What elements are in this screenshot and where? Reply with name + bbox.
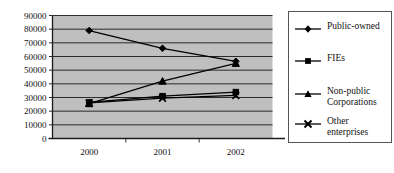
legend-item-label: Public-owned xyxy=(327,21,380,32)
line-chart: 9000080000700006000050000400003000020000… xyxy=(0,0,394,173)
x-axis-tick-labels: 200020012002 xyxy=(80,147,245,157)
y-axis-tick-label: 20000 xyxy=(24,106,47,116)
legend-item-label: Non-public Corporations xyxy=(327,86,377,108)
legend-marker-diamond-icon xyxy=(294,21,322,33)
y-axis-tick-labels: 9000080000700006000050000400003000020000… xyxy=(24,11,47,144)
x-axis-tick-label: 2001 xyxy=(154,147,172,157)
y-axis-tick-label: 70000 xyxy=(24,38,47,48)
legend-item-label: Other enterprises xyxy=(327,116,368,138)
x-axis-tick-label: 2002 xyxy=(227,147,245,157)
legend-marker-triangle-icon xyxy=(294,86,322,98)
y-axis-tick-label: 50000 xyxy=(24,65,47,75)
y-axis-tick-label: 60000 xyxy=(24,52,47,62)
legend-item[interactable]: FIEs xyxy=(294,53,345,65)
x-axis-tick-label: 2000 xyxy=(80,147,99,157)
y-axis-tick-label: 90000 xyxy=(24,11,47,21)
legend-item[interactable]: Public-owned xyxy=(294,21,380,33)
y-axis-tick-label: 30000 xyxy=(24,93,47,103)
y-axis-tick-label: 0 xyxy=(42,134,47,144)
legend-marker-square-icon xyxy=(294,53,322,65)
legend-item[interactable]: Non-public Corporations xyxy=(294,86,377,108)
legend-item-label: FIEs xyxy=(327,53,345,64)
legend-item[interactable]: Other enterprises xyxy=(294,116,368,138)
legend: Public-ownedFIEsNon-public CorporationsO… xyxy=(288,11,392,143)
y-axis-tick-label: 40000 xyxy=(24,79,47,89)
y-axis-tick-label: 10000 xyxy=(24,120,47,130)
y-axis-tick-label: 80000 xyxy=(24,24,47,34)
legend-marker-x-icon xyxy=(294,116,322,128)
